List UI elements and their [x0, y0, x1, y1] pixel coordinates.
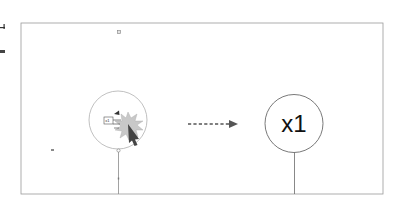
fragment-top-icon-stem: [4, 24, 5, 29]
source-node: x1: [89, 91, 147, 149]
transition-arrow: [188, 120, 238, 128]
left-marker: [51, 149, 54, 151]
source-connector: [117, 149, 120, 194]
arrow-head-icon: [229, 120, 238, 128]
target-node: x1: [265, 95, 323, 195]
diagram-canvas: x1 x1: [0, 0, 407, 208]
left-edge-fragments: [0, 24, 5, 53]
diagram-frame: [21, 23, 383, 194]
top-marker: [118, 31, 121, 34]
x1-tag-box: x1: [104, 117, 113, 124]
fragment-bottom-icon: [0, 50, 5, 53]
connector-node-icon: [117, 149, 120, 152]
connector-dot: [118, 178, 119, 180]
target-node-label: x1: [281, 110, 306, 137]
